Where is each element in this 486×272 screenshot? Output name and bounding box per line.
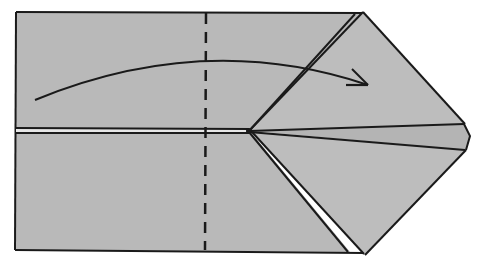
diagram-canvas [0,0,486,272]
origami-diagram: Valley fold the left part along the dash… [0,0,486,272]
center-slit [16,128,252,134]
